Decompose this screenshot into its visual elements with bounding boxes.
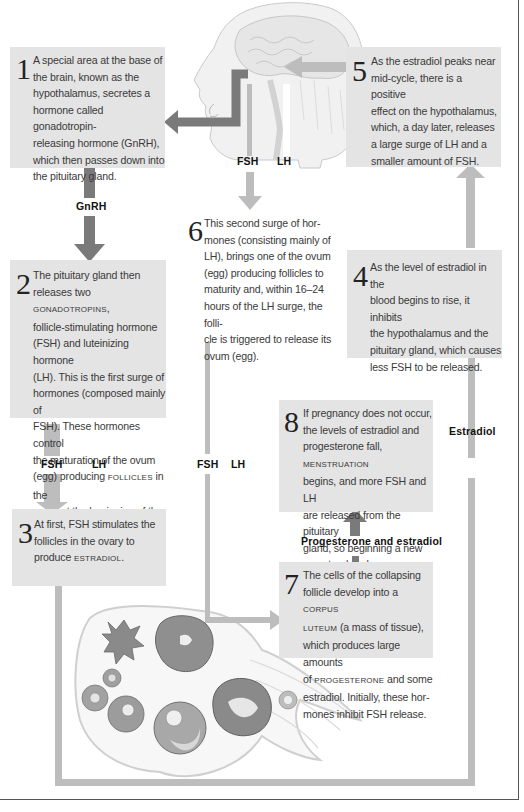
- step-text-line: produce ESTRADIOL.: [34, 549, 164, 568]
- step-text-line: releasing hormone (GnRH),: [33, 135, 165, 152]
- step-text-line: The pituitary gland then: [33, 267, 167, 284]
- step-text-line: A special area at the base of: [33, 52, 165, 69]
- step-text-line: blood begins to rise, it inhibits: [370, 292, 502, 325]
- gnrh-label: GnRH: [76, 200, 107, 212]
- step-text: If pregnancy does not occur,the levels o…: [303, 405, 433, 573]
- step-text-line: begins, and more FSH and LH: [303, 473, 433, 506]
- estradiol-label: Estradiol: [449, 425, 496, 437]
- step-text-line: mid-cycle, there is a positive: [371, 70, 499, 103]
- step-text-line: (egg) producing follicles to: [204, 265, 338, 282]
- step-number: 1: [16, 55, 31, 83]
- step-text-line: maturity and, within 16–24: [204, 281, 338, 298]
- box4-to-box5-arrow: [456, 164, 485, 248]
- step-4-box: 4 As the level of estradiol in theblood …: [347, 250, 502, 358]
- step-text-line: less FSH to be released.: [370, 359, 502, 376]
- step-7-box: 7 The cells of the collapsingfollicle de…: [279, 562, 433, 658]
- step-text-line: (FSH) and luteinizing hormone: [33, 335, 167, 368]
- step-number: 5: [352, 57, 367, 85]
- step-text: As the estradiol peaks nearmid-cycle, th…: [371, 53, 499, 169]
- step-text-line: As the estradiol peaks near: [371, 53, 499, 70]
- step-number: 2: [16, 270, 31, 298]
- step-text-line: progesterone fall, MENSTRUATION: [303, 438, 433, 473]
- step-text-line: follicles in the ovary to: [34, 533, 164, 550]
- step-text: At first, FSH stimulates thefollicles in…: [34, 516, 164, 568]
- step-number: 8: [284, 408, 299, 436]
- step-text-line: LUTEUM (a mass of tissue),: [303, 619, 433, 638]
- mid-lh-label: LH: [231, 458, 245, 470]
- step-text-line: of PROGESTERONE and some: [303, 671, 433, 690]
- step-text-line: follicle develop into a CORPUS: [303, 584, 433, 619]
- step-text-line: the brain, known as the: [33, 69, 165, 86]
- step-text-line: hormone called gonadotropin-: [33, 102, 165, 135]
- step-text-line: which, a day later, releases: [371, 119, 499, 136]
- step-text-line: ovum (egg).: [204, 348, 338, 365]
- step-text-line: releases two GONADOTROPINS,: [33, 284, 167, 319]
- step-text-line: the levels of estradiol and: [303, 422, 433, 439]
- step-text-line: hormones (composed mainly of: [33, 385, 167, 418]
- step-text-line: the pituitary gland.: [33, 168, 165, 185]
- head-illustration: [194, 3, 365, 168]
- step-text-line: At first, FSH stimulates the: [34, 516, 164, 533]
- step-text: A special area at the base ofthe brain, …: [33, 52, 165, 185]
- step-text-line: a large surge of LH and a: [371, 136, 499, 153]
- left-fsh-label: FSH: [41, 458, 63, 470]
- mid-fsh-lh-line: [205, 342, 284, 630]
- step-text-line: (LH). This is the first surge of: [33, 369, 167, 386]
- step-text-line: The cells of the collapsing: [303, 567, 433, 584]
- step-text-line: estradiol. Initially, these hor-: [303, 689, 433, 706]
- step-text-line: smaller amount of FSH.: [371, 153, 499, 170]
- step-number: 4: [353, 262, 368, 290]
- left-lh-label: LH: [92, 458, 106, 470]
- step-text: As the level of estradiol in theblood be…: [370, 259, 502, 375]
- step-text-line: This second surge of hor-: [204, 215, 338, 232]
- step-3-box: 3 At first, FSH stimulates thefollicles …: [12, 509, 166, 586]
- step-text-line: hypothalamus, secretes a: [33, 85, 165, 102]
- step-text: The cells of the collapsingfollicle deve…: [303, 567, 433, 722]
- step-text: The pituitary gland thenreleases two GON…: [33, 267, 167, 537]
- step-6-text-block: 6 This second surge of hor-mones (consis…: [185, 215, 335, 350]
- step-text-line: FSH). These hormones control: [33, 418, 167, 451]
- step-number: 3: [18, 519, 33, 547]
- step-text-line: As the level of estradiol in the: [370, 259, 502, 292]
- step-1-box: 1 A special area at the base ofthe brain…: [10, 47, 165, 168]
- step-text-line: mones inhibit FSH release.: [303, 706, 433, 723]
- step-text-line: cle is triggered to release its: [204, 331, 338, 348]
- step-2-box: 2 The pituitary gland thenreleases two G…: [10, 260, 166, 418]
- step-text-line: If pregnancy does not occur,: [303, 405, 433, 422]
- step-text-line: mones (consisting mainly of: [204, 232, 338, 249]
- head-fsh-label: FSH: [237, 155, 259, 167]
- step-text-line: LH), brings one of the ovum: [204, 248, 338, 265]
- step-text-line: which produces large amounts: [303, 637, 433, 670]
- progesterone-estradiol-label: Progesterone and estradiol: [301, 535, 442, 547]
- step-text: This second surge of hor-mones (consisti…: [204, 215, 338, 364]
- head-lh-label: LH: [277, 155, 291, 167]
- head-to-step6-arrow: [238, 172, 262, 210]
- step-text-line: pituitary gland, which causes: [370, 342, 502, 359]
- step-number: 6: [188, 217, 203, 245]
- step-text-line: effect on the hypothalamus,: [371, 103, 499, 120]
- step-number: 7: [284, 570, 299, 598]
- step-8-box: 8 If pregnancy does not occur,the levels…: [279, 400, 433, 512]
- step-5-box: 5 As the estradiol peaks nearmid-cycle, …: [346, 47, 501, 167]
- mid-fsh-label: FSH: [197, 458, 219, 470]
- step-text-line: which then passes down into: [33, 152, 165, 169]
- step-text-line: (egg) producing FOLLICLES in the: [33, 468, 167, 503]
- step-text-line: the hypothalamus and the: [370, 325, 502, 342]
- step-text-line: hours of the LH surge, the folli-: [204, 298, 338, 331]
- step-text-line: follicle-stimulating hormone: [33, 319, 167, 336]
